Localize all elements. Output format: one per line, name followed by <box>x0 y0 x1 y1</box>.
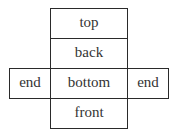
face-back: back <box>50 38 128 69</box>
face-label-top: top <box>79 15 98 30</box>
face-front: front <box>50 98 128 129</box>
face-left-end: end <box>9 68 51 99</box>
face-top: top <box>50 8 128 39</box>
face-label-back: back <box>75 45 103 60</box>
face-label-front: front <box>74 105 103 120</box>
face-label-bottom: bottom <box>68 75 111 90</box>
face-label-right-end: end <box>137 75 159 90</box>
face-label-left-end: end <box>19 75 41 90</box>
face-bottom: bottom <box>50 68 128 99</box>
face-right-end: end <box>127 68 169 99</box>
